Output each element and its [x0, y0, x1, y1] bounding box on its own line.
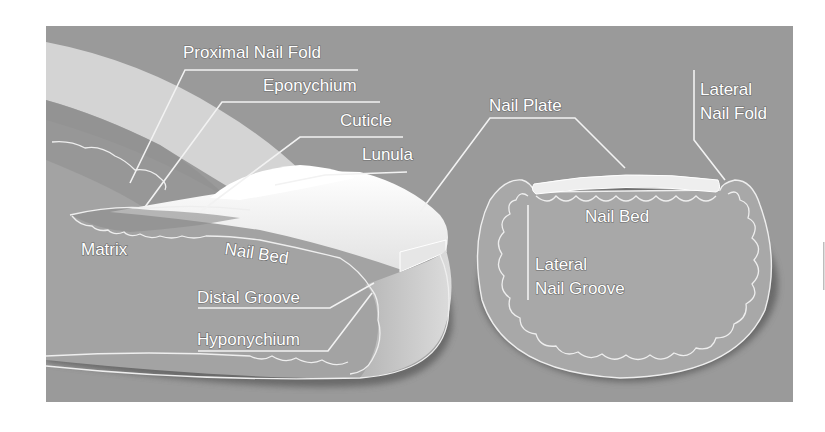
label-nail-plate: Nail Plate: [489, 96, 562, 115]
label-lateral-nail-groove-2: Nail Groove: [535, 279, 625, 298]
label-hyponychium: Hyponychium: [197, 330, 300, 349]
label-lateral-nail-fold-2: Nail Fold: [700, 104, 767, 123]
label-matrix: Matrix: [81, 240, 128, 259]
label-distal-groove: Distal Groove: [197, 288, 300, 307]
label-proximal-nail-fold: Proximal Nail Fold: [183, 43, 321, 62]
label-cuticle: Cuticle: [340, 111, 392, 130]
nail-anatomy-figure: Proximal Nail Fold Eponychium Cuticle Lu…: [0, 0, 825, 432]
label-lateral-nail-groove-1: Lateral: [535, 255, 587, 274]
label-eponychium: Eponychium: [263, 76, 357, 95]
label-nail-bed-cross: Nail Bed: [585, 207, 649, 226]
cross-section-view: [478, 175, 779, 382]
label-lateral-nail-fold-1: Lateral: [700, 80, 752, 99]
edge-mark: [823, 242, 825, 290]
label-lunula: Lunula: [362, 145, 414, 164]
